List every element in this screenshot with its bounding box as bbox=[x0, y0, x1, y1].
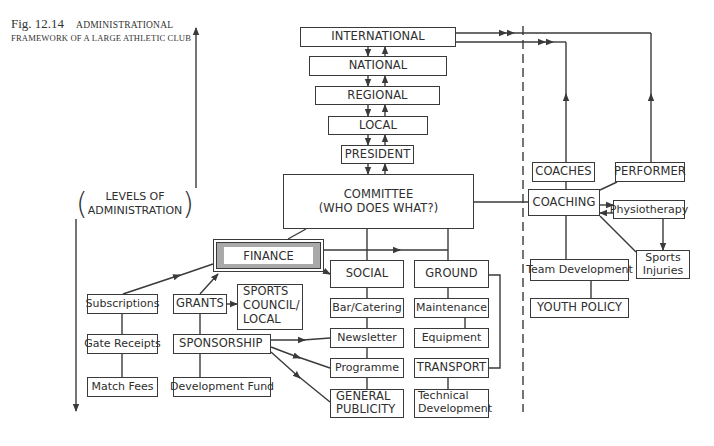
node-sports-council-line2: COUNCIL/ bbox=[243, 299, 300, 313]
node-team-development: Team Development bbox=[530, 259, 629, 281]
node-sports-council-line1: SPORTS bbox=[243, 285, 288, 299]
node-regional: REGIONAL bbox=[315, 86, 440, 105]
node-youth-policy: YOUTH POLICY bbox=[530, 298, 629, 318]
node-equipment-label: Equipment bbox=[422, 331, 482, 344]
node-newsletter-label: Newsletter bbox=[337, 331, 396, 344]
node-transport-label: TRANSPORT bbox=[417, 361, 486, 375]
node-development-fund-label: Development Fund bbox=[170, 380, 274, 393]
node-committee: COMMITTEE (WHO DOES WHAT?) bbox=[283, 174, 474, 229]
node-technical-development-line1: Technical bbox=[418, 390, 469, 403]
node-technical-development: Technical Development bbox=[414, 389, 489, 418]
node-youth-policy-label: YOUTH POLICY bbox=[537, 301, 622, 315]
node-coaches: COACHES bbox=[532, 162, 595, 182]
diagram-root: Fig. 12.14Administrational FRAMEWORK OF … bbox=[0, 0, 714, 446]
levels-line1: LEVELS OF bbox=[88, 190, 183, 204]
figure-number: Fig. 12.14 bbox=[11, 16, 64, 31]
node-programme: Programme bbox=[330, 358, 404, 378]
node-coaches-label: COACHES bbox=[535, 165, 592, 179]
close-paren: ) bbox=[182, 189, 194, 219]
node-local-label: LOCAL bbox=[359, 119, 397, 133]
node-sports-council: SPORTS COUNCIL/ LOCAL bbox=[237, 284, 303, 330]
node-performer-label: PERFORMER bbox=[614, 165, 686, 179]
node-match-fees: Match Fees bbox=[87, 377, 158, 397]
node-coaching: COACHING bbox=[528, 189, 600, 216]
node-newsletter: Newsletter bbox=[330, 328, 404, 348]
node-sponsorship-label: SPONSORSHIP bbox=[179, 337, 263, 351]
node-regional-label: REGIONAL bbox=[347, 89, 407, 103]
levels-of-administration-label: ( LEVELS OF ADMINISTRATION ) bbox=[76, 185, 194, 223]
node-technical-development-line2: Development bbox=[418, 403, 492, 416]
node-grants: GRANTS bbox=[173, 294, 227, 314]
node-physiotherapy: Physiotherapy bbox=[613, 200, 685, 219]
node-international-label: INTERNATIONAL bbox=[331, 30, 425, 44]
node-match-fees-label: Match Fees bbox=[91, 380, 153, 393]
node-gate-receipts-label: Gate Receipts bbox=[84, 337, 161, 350]
node-sports-injuries-line2: Injuries bbox=[643, 265, 683, 278]
node-general-publicity: GENERAL PUBLICITY bbox=[330, 389, 404, 418]
node-equipment: Equipment bbox=[414, 328, 489, 348]
node-coaching-label: COACHING bbox=[533, 196, 596, 210]
finance-frame: FINANCE bbox=[216, 242, 321, 269]
node-general-publicity-line2: PUBLICITY bbox=[336, 403, 395, 416]
node-subscriptions: Subscriptions bbox=[87, 294, 158, 314]
node-sports-council-line3: LOCAL bbox=[243, 313, 281, 327]
node-sports-injuries: Sports Injuries bbox=[636, 250, 690, 279]
node-physiotherapy-label: Physiotherapy bbox=[610, 203, 688, 216]
node-president: PRESIDENT bbox=[341, 145, 414, 164]
node-sports-injuries-line1: Sports bbox=[645, 252, 680, 265]
node-ground-label: GROUND bbox=[425, 267, 477, 281]
node-sponsorship: SPONSORSHIP bbox=[173, 334, 271, 354]
node-maintenance-label: Maintenance bbox=[416, 301, 487, 314]
levels-line2: ADMINISTRATION bbox=[88, 204, 183, 218]
node-local: LOCAL bbox=[328, 116, 428, 135]
node-social-label: SOCIAL bbox=[346, 267, 389, 281]
node-gate-receipts: Gate Receipts bbox=[87, 334, 158, 354]
node-bar-catering-label: Bar/Catering bbox=[332, 301, 402, 314]
node-transport: TRANSPORT bbox=[414, 358, 489, 378]
node-programme-label: Programme bbox=[335, 361, 399, 374]
node-maintenance: Maintenance bbox=[414, 298, 489, 318]
node-ground: GROUND bbox=[414, 260, 489, 288]
node-social: SOCIAL bbox=[330, 260, 404, 288]
node-subscriptions-label: Subscriptions bbox=[85, 297, 159, 310]
node-committee-line1: COMMITTEE bbox=[344, 188, 414, 202]
node-president-label: PRESIDENT bbox=[345, 148, 411, 162]
node-national-label: NATIONAL bbox=[349, 59, 408, 73]
figure-title-line2: FRAMEWORK OF A LARGE ATHLETIC CLUB bbox=[11, 33, 191, 43]
node-performer: PERFORMER bbox=[615, 162, 685, 182]
open-paren: ( bbox=[76, 189, 88, 219]
node-bar-catering: Bar/Catering bbox=[330, 298, 404, 318]
node-national: NATIONAL bbox=[309, 56, 447, 76]
node-team-development-label: Team Development bbox=[526, 263, 633, 276]
node-committee-line2: (WHO DOES WHAT?) bbox=[319, 202, 439, 216]
node-development-fund: Development Fund bbox=[173, 377, 271, 397]
node-grants-label: GRANTS bbox=[176, 297, 224, 311]
node-finance: FINANCE bbox=[213, 239, 324, 272]
figure-caption: Fig. 12.14Administrational bbox=[11, 16, 173, 32]
node-finance-label: FINANCE bbox=[224, 247, 313, 264]
figure-title-line1: Administrational bbox=[76, 20, 173, 30]
node-international: INTERNATIONAL bbox=[300, 27, 456, 47]
